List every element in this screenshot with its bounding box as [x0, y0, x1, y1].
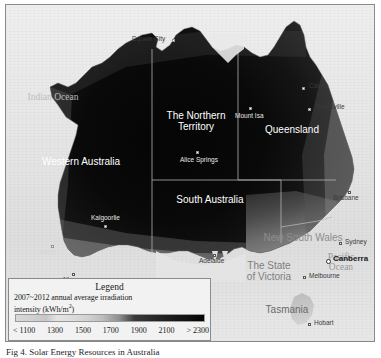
- city-marker-townsville[interactable]: [308, 108, 311, 111]
- capital-marker-canberra[interactable]: [326, 259, 331, 264]
- legend-tick-6: > 2300: [186, 326, 209, 335]
- city-marker-perth[interactable]: [51, 245, 54, 248]
- city-marker-alice-springs[interactable]: [196, 151, 199, 154]
- city-marker-hobart[interactable]: [308, 323, 311, 326]
- city-marker-albany[interactable]: [72, 273, 75, 276]
- figure-caption: Fig 4. Solar Energy Resources in Austral…: [6, 347, 160, 357]
- legend-tick-2: 1500: [75, 326, 91, 335]
- legend-title: Legend: [9, 282, 210, 292]
- legend-description: 2007~2012 annual average irradiation int…: [14, 293, 210, 315]
- city-marker-kalgoorlie[interactable]: [104, 225, 107, 228]
- legend-scale-labels: < 1100 1300 1500 1700 1900 2100 > 2300: [13, 326, 209, 335]
- legend-colorbar: [15, 314, 205, 322]
- legend-tick-3: 1700: [103, 326, 119, 335]
- city-marker-cairns[interactable]: [302, 87, 305, 90]
- legend-description-line2-prefix: intensity (kWh/m: [14, 305, 69, 314]
- legend-tick-5: 2100: [159, 326, 175, 335]
- city-marker-brisbane[interactable]: [348, 191, 351, 194]
- legend-description-line2-suffix: ): [72, 305, 75, 314]
- city-marker-adelaide[interactable]: [213, 254, 216, 257]
- legend-tick-4: 1900: [131, 326, 147, 335]
- city-marker-melbourne[interactable]: [303, 276, 306, 279]
- city-marker-mount-isa[interactable]: [249, 107, 252, 110]
- figure-solar-energy-resources-australia: Indian Ocean Pacific Ocean Western Austr…: [0, 0, 381, 358]
- city-marker-darwin-city[interactable]: [172, 39, 175, 42]
- legend-tick-1: 1300: [47, 326, 63, 335]
- legend-tick-0: < 1100: [13, 326, 35, 335]
- legend-description-line1: 2007~2012 annual average irradiation: [14, 293, 132, 302]
- legend-panel: Legend 2007~2012 annual average irradiat…: [8, 278, 211, 341]
- city-marker-sydney[interactable]: [339, 242, 342, 245]
